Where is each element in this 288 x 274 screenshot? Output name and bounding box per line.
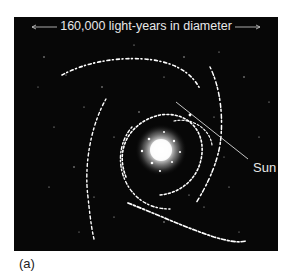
figure-caption: (a) xyxy=(19,256,35,271)
scale-label: 160,000 light-years in diameter xyxy=(14,19,278,33)
sun-label: Sun xyxy=(253,160,276,175)
scale-label-text: 160,000 light-years in diameter xyxy=(57,19,235,33)
galactic-core xyxy=(135,124,187,176)
spiral-galaxy-illustration xyxy=(14,17,278,251)
galaxy-image-panel: 160,000 light-years in diameter Sun xyxy=(14,17,278,251)
sun-marker xyxy=(189,114,192,117)
